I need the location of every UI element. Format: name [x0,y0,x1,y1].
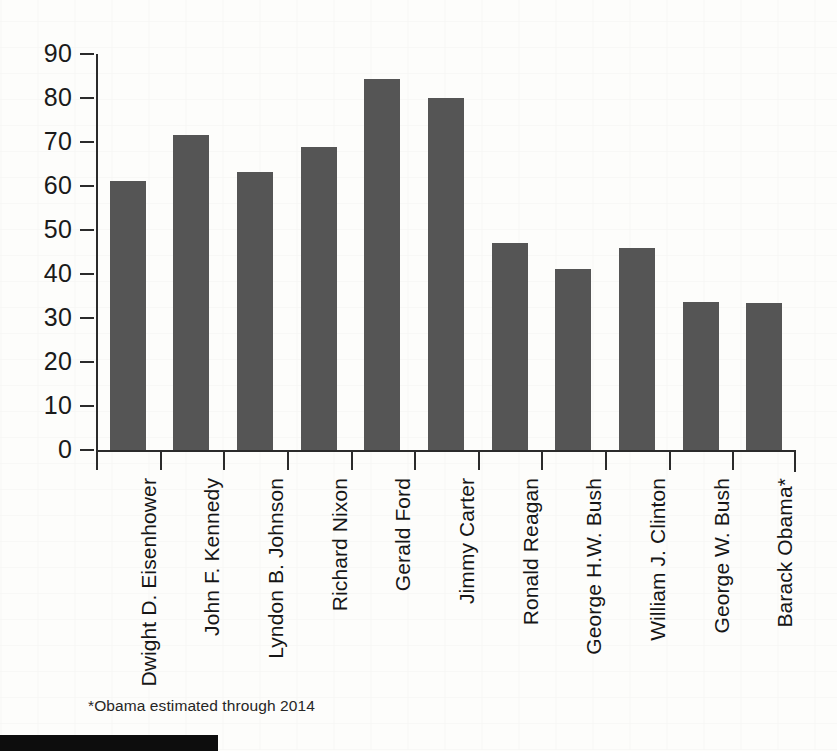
y-axis-tick-mark [80,317,94,319]
y-axis-tick-mark [80,97,94,99]
bar [492,243,528,450]
y-axis-tick-mark [80,405,94,407]
y-axis-tick-mark [80,361,94,363]
x-axis-category-label: Lyndon B. Johnson [264,478,288,659]
x-axis-category-label: Dwight D. Eisenhower [137,478,161,687]
x-axis-tick-mark [669,450,671,470]
page-edge-bar [0,735,218,751]
bar [555,269,591,450]
y-axis-tick-label: 40 [0,259,72,288]
x-axis-tick-mark [605,450,607,470]
y-axis-tick-label: 30 [0,303,72,332]
x-axis-tick-mark [351,450,353,470]
x-axis-tick-mark [541,450,543,470]
x-axis-tick-mark [478,450,480,470]
y-axis-tick-label: 50 [0,215,72,244]
x-axis-tick-mark [223,450,225,470]
y-axis-tick-label: 70 [0,127,72,156]
plot-area [96,54,796,450]
bar [364,79,400,450]
bar [301,147,337,450]
x-axis-category-label: George H.W. Bush [582,478,606,655]
y-axis-tick-mark [80,273,94,275]
x-axis-tick-mark [160,450,162,470]
bar [746,303,782,450]
x-axis-category-label: Barack Obama* [773,478,797,628]
y-axis-tick-mark [80,141,94,143]
y-axis-tick-mark [80,229,94,231]
x-axis-category-label: William J. Clinton [646,478,670,641]
bar [428,98,464,450]
bar [683,302,719,450]
x-axis-category-label: John F. Kennedy [200,478,224,636]
bar [110,181,146,450]
x-axis-line [96,450,796,452]
y-axis-tick-label: 0 [0,435,72,464]
y-axis-tick-label: 20 [0,347,72,376]
chart-footnote: *Obama estimated through 2014 [88,697,315,715]
x-axis-category-label: Ronald Reagan [519,478,543,625]
x-axis-category-label: Gerald Ford [391,478,415,591]
bar [173,135,209,450]
x-axis-tick-mark [287,450,289,470]
y-axis-tick-mark [80,449,94,451]
y-axis-tick-mark [80,185,94,187]
y-axis-tick-label: 60 [0,171,72,200]
x-axis-tick-mark [96,450,98,470]
x-axis-category-label: Richard Nixon [328,478,352,611]
bar [237,172,273,450]
x-axis-category-label: George W. Bush [710,478,734,633]
x-axis-right-cap [794,450,796,472]
bar [619,248,655,450]
x-axis-category-label: Jimmy Carter [455,478,479,604]
y-axis-tick-mark [80,53,94,55]
y-axis-tick-label: 90 [0,39,72,68]
x-axis-tick-mark [732,450,734,470]
x-axis-tick-mark [414,450,416,470]
y-axis-tick-label: 10 [0,391,72,420]
y-axis-tick-label: 80 [0,83,72,112]
